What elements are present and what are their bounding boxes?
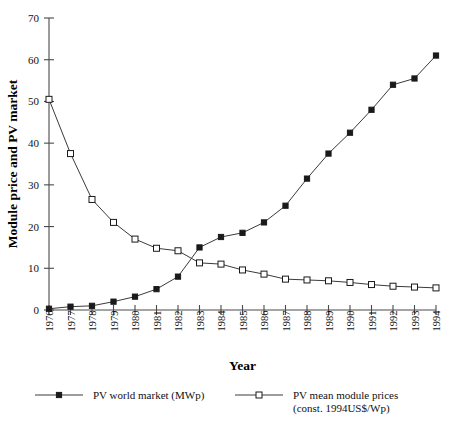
data-point [132, 294, 137, 299]
data-point [283, 203, 288, 208]
data-point [412, 284, 418, 290]
data-point [412, 76, 417, 81]
data-point [197, 245, 202, 250]
data-point [218, 261, 224, 267]
x-axis-tick-label: 1976 [44, 311, 55, 332]
data-point [46, 96, 52, 102]
data-point [347, 130, 352, 135]
data-point [89, 196, 95, 202]
y-axis-tick-label: 60 [28, 54, 40, 66]
data-point [369, 282, 375, 288]
data-point [390, 82, 395, 87]
legend-marker [256, 392, 262, 398]
y-axis-tick-label: 50 [28, 95, 40, 107]
data-point [111, 299, 116, 304]
data-point [154, 245, 160, 251]
data-point [261, 271, 267, 277]
data-point [175, 274, 180, 279]
data-point [89, 303, 94, 308]
data-point [68, 304, 73, 309]
data-point [175, 248, 181, 254]
data-point [347, 279, 353, 285]
line-chart: 0102030405060701976197719781979198019811… [0, 0, 450, 422]
x-axis-tick-label: 1984 [216, 310, 227, 332]
data-point [240, 267, 246, 273]
data-point [132, 236, 138, 242]
x-axis-tick-label: 1978 [87, 311, 98, 332]
series-2 [46, 96, 439, 291]
x-axis-tick-label: 1991 [367, 311, 378, 332]
chart-legend: PV world market (MWp)PV mean module pric… [35, 389, 398, 415]
data-point [240, 230, 245, 235]
x-axis-tick-label: 1982 [173, 311, 184, 332]
data-point [68, 151, 74, 157]
data-point [111, 219, 117, 225]
x-axis-tick-label: 1980 [130, 311, 141, 332]
data-point [326, 151, 331, 156]
data-point [218, 234, 223, 239]
x-axis-tick-label: 1993 [410, 311, 421, 332]
x-axis-tick-label: 1977 [66, 311, 77, 332]
x-axis-tick-label: 1985 [238, 311, 249, 332]
data-point [283, 276, 289, 282]
y-axis-tick-label: 10 [28, 262, 40, 274]
series-line [49, 99, 436, 288]
x-axis-tick-label: 1986 [259, 311, 270, 332]
x-axis-tick-label: 1979 [109, 311, 120, 332]
data-point [304, 176, 309, 181]
legend-label: PV world market (MWp) [93, 389, 205, 402]
x-axis-tick-label: 1988 [302, 311, 313, 332]
data-point [326, 278, 332, 284]
data-point [390, 283, 396, 289]
legend-marker [56, 392, 61, 397]
y-axis-tick-label: 30 [28, 179, 40, 191]
data-point [261, 220, 266, 225]
y-axis-tick-label: 0 [34, 304, 40, 316]
data-point [433, 285, 439, 291]
y-axis-tick-label: 20 [28, 221, 40, 233]
data-point [304, 277, 310, 283]
x-axis-tick-label: 1983 [195, 311, 206, 332]
legend-label: PV mean module prices [293, 389, 398, 401]
data-point [154, 287, 159, 292]
x-axis-tick-label: 1981 [152, 311, 163, 332]
chart-figure: 0102030405060701976197719781979198019811… [0, 0, 450, 422]
x-axis-title: Year [229, 358, 256, 373]
data-point [197, 260, 203, 266]
y-axis-title: Module price and PV market [5, 79, 20, 248]
data-point [46, 306, 51, 311]
x-axis-tick-label: 1990 [345, 311, 356, 332]
y-axis-tick-label: 70 [28, 12, 40, 24]
axes: 0102030405060701976197719781979198019811… [5, 12, 442, 373]
x-axis-tick-label: 1987 [281, 311, 292, 332]
data-point [369, 107, 374, 112]
x-axis-tick-label: 1994 [431, 310, 442, 332]
legend-sublabel: (const. 1994US$/Wp) [293, 402, 390, 415]
x-axis-tick-label: 1989 [324, 311, 335, 332]
data-point [433, 53, 438, 58]
y-axis-tick-label: 40 [28, 137, 40, 149]
x-axis-tick-label: 1992 [388, 311, 399, 332]
